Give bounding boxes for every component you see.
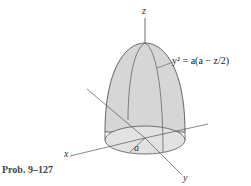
radius-label: a [134, 142, 139, 153]
equation-label: y² = a(a − z/2) [172, 55, 229, 66]
y-axis-label: y [183, 172, 187, 183]
problem-caption: Prob. 9–127 [2, 164, 53, 175]
z-axis-label: z [142, 5, 146, 16]
x-axis-label: x [64, 148, 68, 159]
paraboloid-diagram [0, 0, 251, 186]
